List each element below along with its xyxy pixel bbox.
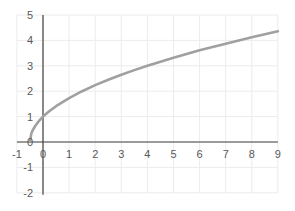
x-tick-label: 4 <box>144 148 150 160</box>
x-tick-label: 1 <box>66 148 72 160</box>
x-tick-labels: -10123456789 <box>12 148 281 160</box>
chart-canvas: -10123456789 -2-1012345 <box>0 0 295 211</box>
y-tick-label: 4 <box>27 34 33 46</box>
x-tick-label: -1 <box>12 148 22 160</box>
y-tick-label: 0 <box>27 136 33 148</box>
y-tick-labels: -2-1012345 <box>23 9 33 199</box>
y-tick-label: -2 <box>23 187 33 199</box>
x-tick-label: 5 <box>170 148 176 160</box>
y-tick-label: -1 <box>23 161 33 173</box>
x-tick-label: 2 <box>92 148 98 160</box>
y-tick-label: 1 <box>27 111 33 123</box>
series-line <box>30 31 278 142</box>
y-tick-label: 2 <box>27 85 33 97</box>
x-tick-label: 6 <box>197 148 203 160</box>
x-tick-label: 3 <box>118 148 124 160</box>
x-tick-label: 8 <box>249 148 255 160</box>
x-tick-label: 7 <box>223 148 229 160</box>
x-tick-label: 0 <box>40 148 46 160</box>
y-tick-label: 5 <box>27 9 33 21</box>
y-tick-label: 3 <box>27 60 33 72</box>
x-tick-label: 9 <box>275 148 281 160</box>
